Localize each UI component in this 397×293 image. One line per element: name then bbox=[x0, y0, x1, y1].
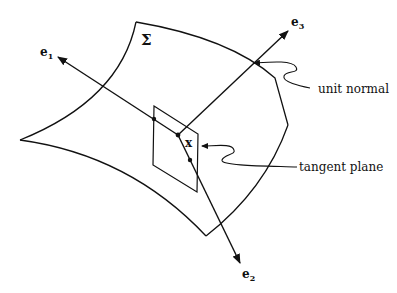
surface-bottom-left-edge bbox=[20, 140, 206, 236]
unit-normal-label: unit normal bbox=[318, 83, 389, 95]
e2-label: e2 bbox=[242, 268, 255, 282]
e1-index: 1 bbox=[48, 51, 54, 61]
e3-vector bbox=[178, 31, 288, 135]
tangent-plane-label: tangent plane bbox=[299, 161, 383, 173]
diagram-drawing bbox=[0, 0, 397, 293]
point-x-label: x bbox=[185, 137, 192, 149]
e1-name: e bbox=[40, 45, 48, 59]
plane-e1-dot bbox=[152, 117, 156, 121]
surface-top-left-edge bbox=[20, 22, 136, 140]
e2-index: 2 bbox=[250, 273, 256, 283]
e2-name: e bbox=[242, 267, 250, 281]
e1-vector bbox=[58, 57, 178, 135]
tangent-plane-leader bbox=[202, 145, 297, 167]
unit-normal-leader bbox=[254, 62, 310, 88]
surface-diagram: Σ e1 e3 e2 x unit normal tangent plane bbox=[0, 0, 397, 293]
e3-index: 3 bbox=[299, 21, 305, 31]
e3-label: e3 bbox=[291, 16, 304, 30]
e3-name: e bbox=[291, 15, 299, 29]
plane-e2-dot bbox=[188, 158, 192, 162]
surface-label: Σ bbox=[141, 33, 152, 48]
e1-label: e1 bbox=[40, 46, 53, 60]
point-x-dot bbox=[176, 133, 181, 138]
